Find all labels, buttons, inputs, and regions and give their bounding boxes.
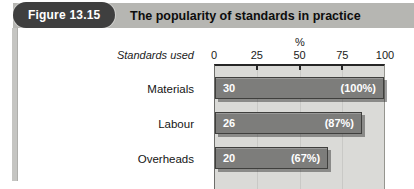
axis-tick-labels: 0 25 50 75 100 — [214, 49, 385, 62]
tickmark-25 — [256, 66, 258, 70]
tick-label-75: 75 — [336, 49, 348, 61]
figure-panel: Figure 13.15 The popularity of standards… — [0, 0, 414, 189]
bar-percent-label: (67%) — [291, 152, 320, 164]
category-label-labour: Labour — [158, 116, 194, 132]
bar-value-label: 20 — [223, 152, 235, 164]
axis-title-label: Standards used — [117, 49, 194, 61]
tick-label-0: 0 — [211, 49, 217, 61]
category-label-overheads: Overheads — [138, 151, 194, 167]
figure-badge: Figure 13.15 — [13, 2, 115, 28]
tick-label-25: 25 — [251, 49, 263, 61]
bar-percent-label: (100%) — [341, 82, 376, 94]
bar-percent-label: (87%) — [325, 117, 354, 129]
bar-value-label: 30 — [223, 82, 235, 94]
category-label-materials: Materials — [147, 81, 194, 97]
bar-materials: 30 (100%) — [215, 77, 384, 99]
bar-value-label: 26 — [223, 117, 235, 129]
tickmark-75 — [341, 66, 343, 70]
figure-header: Figure 13.15 The popularity of standards… — [13, 3, 414, 28]
tick-label-50: 50 — [293, 49, 305, 61]
plot-area: 30 (100%) 26 (87%) 20 (67%) — [214, 64, 385, 189]
bar-overheads: 20 (67%) — [215, 147, 328, 169]
percent-axis-label: % — [288, 36, 312, 48]
bar-labour: 26 (87%) — [215, 112, 362, 134]
figure-title: The popularity of standards in practice — [130, 3, 361, 28]
left-accent-strip — [12, 28, 18, 181]
tick-label-100: 100 — [376, 49, 394, 61]
tickmark-50 — [299, 66, 301, 70]
